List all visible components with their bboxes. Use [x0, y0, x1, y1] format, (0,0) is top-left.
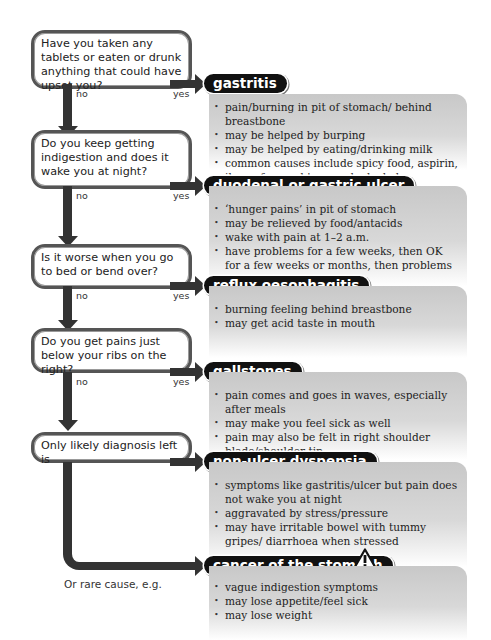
yes-label: yes: [173, 88, 189, 99]
yes-arrow-2: [170, 182, 196, 190]
symptom-item: may get acid taste in mouth: [214, 316, 461, 330]
yes-label: yes: [173, 376, 189, 387]
no-arrow-2: [63, 186, 72, 238]
rare-cause-label: Or rare cause, e.g.: [64, 578, 162, 590]
question-box-bend-over: Is it worse when you go to bed or bend o…: [31, 244, 192, 289]
yes-label: yes: [173, 190, 189, 201]
yes-arrow-4: [170, 368, 196, 376]
question-box-ribs: Do you get pains just below your ribs on…: [31, 328, 192, 373]
symptom-item: pain/burning in pit of stomach/ behind b…: [214, 100, 461, 128]
no-label: no: [76, 376, 88, 387]
symptom-item: burning feeling behind breastbone: [214, 302, 461, 316]
symptom-item: ‘hunger pains’ in pit of stomach: [214, 202, 461, 216]
symptom-item: may lose weight: [214, 608, 461, 622]
diagnosis-box-ulcer: ‘hunger pains’ in pit of stomach may be …: [209, 186, 467, 286]
diagnosis-box-non-ulcer-dyspepsia: symptoms like gastritis/ulcer but pain d…: [209, 462, 467, 567]
diagnosis-box-cancer-of-stomach: vague indigestion symptoms may lose appe…: [209, 566, 467, 640]
symptom-item: vague indigestion symptoms: [214, 580, 461, 594]
no-arrow-4: [63, 372, 72, 422]
no-label: no: [76, 290, 88, 301]
symptom-item: pain comes and goes in waves, especially…: [214, 388, 461, 416]
no-arrow-1: [63, 84, 72, 128]
symptom-item: may be helped by burping: [214, 128, 461, 142]
diagnosis-box-reflux: burning feeling behind breastbone may ge…: [209, 286, 467, 358]
yes-label: yes: [173, 290, 189, 301]
diagnosis-box-gastritis: pain/burning in pit of stomach/ behind b…: [209, 94, 467, 170]
symptom-item: wake with pain at 1–2 a.m.: [214, 230, 461, 244]
symptom-item: may be helped by eating/drinking milk: [214, 142, 461, 156]
no-arrow-3: [63, 286, 72, 322]
symptom-item: may make you feel sick as well: [214, 416, 461, 430]
symptom-item: aggravated by stress/pressure: [214, 506, 461, 520]
symptom-item: may lose appetite/feel sick: [214, 594, 461, 608]
yes-arrow-3: [170, 282, 196, 290]
no-label: no: [76, 88, 88, 99]
question-box-indigestion: Do you keep getting indigestion and does…: [31, 130, 192, 189]
diagnosis-title-gastritis: gastritis: [204, 74, 287, 93]
symptom-item: may have irritable bowel with tummy grip…: [214, 520, 461, 548]
symptom-item: symptoms like gastritis/ulcer but pain d…: [214, 478, 461, 506]
no-label: no: [76, 190, 88, 201]
question-box-tablets: Have you taken any tablets or eaten or d…: [31, 30, 192, 89]
symptom-item: may be relieved by food/antacids: [214, 216, 461, 230]
yes-arrow-1: [170, 80, 196, 88]
rare-cause-arrow: [63, 462, 196, 570]
arrow-down-icon: [58, 420, 78, 431]
question-box-only-diagnosis: Only likely diagnosis left is: [31, 432, 192, 463]
diagnosis-box-gallstones: pain comes and goes in waves, especially…: [209, 372, 467, 460]
